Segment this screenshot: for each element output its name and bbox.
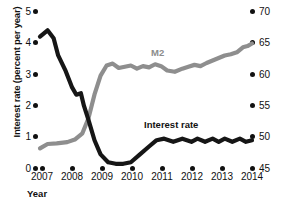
series-line-interest-rate [40, 30, 252, 163]
plot-area [0, 0, 283, 210]
series-label-m2: M2 [151, 47, 164, 58]
chart-figure: Interest rate (percent per year) Year 0 … [0, 0, 283, 210]
series-line-m2 [40, 44, 252, 149]
series-label-interest-rate: Interest rate [144, 119, 198, 130]
